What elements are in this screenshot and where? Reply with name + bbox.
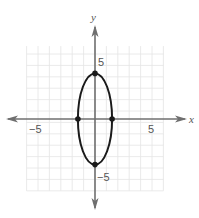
ellipse-point: [75, 116, 81, 122]
ellipse-point: [92, 162, 98, 168]
axis-labels: x y −5 5 5 −5: [29, 11, 194, 183]
ellipse-graph: x y −5 5 5 −5: [0, 0, 199, 218]
x-tick-label-5: 5: [148, 123, 154, 135]
y-axis-label: y: [90, 11, 96, 23]
y-tick-label-neg5: −5: [97, 171, 110, 183]
x-axis-label: x: [188, 113, 194, 125]
y-tick-label-5: 5: [98, 56, 104, 68]
x-tick-label-neg5: −5: [29, 123, 42, 135]
ellipse-point: [109, 116, 115, 122]
ellipse-point: [92, 71, 98, 77]
